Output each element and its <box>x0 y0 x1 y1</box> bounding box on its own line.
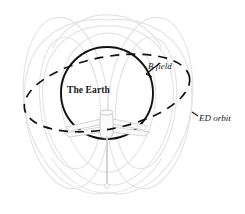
ed-orbit-leader <box>192 112 198 116</box>
tether-end-mass <box>105 184 110 189</box>
earth-label: The Earth <box>67 86 110 96</box>
diagram-svg <box>0 0 245 214</box>
field-line-right-mid <box>108 26 174 185</box>
figure-canvas: The Earth B field ED orbit <box>0 0 245 214</box>
satellite-body-top-cap <box>100 110 113 115</box>
field-line-left-mid <box>42 26 108 185</box>
field-line-left-outer <box>24 19 108 193</box>
b-field-label: B field <box>148 62 172 71</box>
ed-orbit-label: ED orbit <box>199 114 231 123</box>
satellite-body <box>100 112 113 138</box>
magnetic-field-lines <box>15 13 201 194</box>
